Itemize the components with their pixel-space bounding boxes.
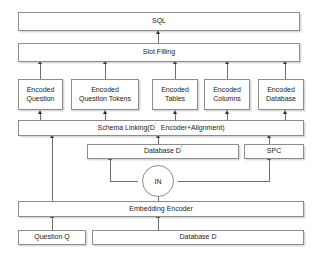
- node-database-d-label: Database D: [180, 233, 217, 242]
- node-encoded-question-line2: Question: [26, 95, 54, 104]
- node-embedding-encoder-label: Embedding Encoder: [129, 205, 192, 214]
- connector-encoded-tables-to-slotfilling: [175, 62, 176, 79]
- node-in-label: IN: [155, 178, 162, 185]
- node-database-d-prime-prefix: Database D: [144, 147, 181, 154]
- node-encoded-columns[interactable]: Encoded Columns: [204, 79, 250, 110]
- node-schema-linking-prefix: Schema Linking(D: [98, 124, 155, 131]
- node-encoded-question-tokens[interactable]: Encoded Question Tokens: [71, 79, 139, 110]
- node-spc-label: SPC: [267, 147, 281, 156]
- arrowhead-encoded-question-tokens: [103, 110, 107, 114]
- node-encoded-database[interactable]: Encoded Database: [258, 79, 304, 110]
- arrowhead-encoded-database: [283, 110, 287, 114]
- node-schema-linking-suffix: Encoder+Alignment): [161, 124, 225, 131]
- connector-encoded-question-tokens-to-slotfilling: [105, 62, 106, 79]
- node-sql-label: SQL: [152, 17, 166, 26]
- node-encoded-question-tokens-line1: Encoded: [91, 86, 119, 95]
- node-database-d-prime-label: Database D': [144, 147, 182, 156]
- node-spc[interactable]: SPC: [244, 144, 304, 159]
- node-encoded-question[interactable]: Encoded Question: [18, 79, 63, 110]
- node-encoded-tables-line2: Tables: [165, 95, 185, 104]
- node-database-d[interactable]: Database D: [92, 230, 304, 245]
- connector-in-to-databasedprime-horizontal: [110, 181, 138, 182]
- connector-encoded-database-to-slotfilling: [285, 62, 286, 79]
- node-embedding-encoder[interactable]: Embedding Encoder: [18, 201, 304, 217]
- node-sql[interactable]: SQL: [18, 12, 300, 31]
- node-encoded-columns-line2: Columns: [213, 95, 241, 104]
- connector-encoded-columns-to-slotfilling: [227, 62, 228, 79]
- node-question-q[interactable]: Question Q: [18, 230, 86, 245]
- node-encoded-question-tokens-line2: Question Tokens: [79, 95, 131, 104]
- node-encoded-tables[interactable]: Encoded Tables: [152, 79, 198, 110]
- node-schema-linking-label: Schema Linking(D'Encoder+Alignment): [98, 124, 225, 133]
- node-schema-linking[interactable]: Schema Linking(D'Encoder+Alignment): [18, 120, 304, 136]
- connector-encoded-question-to-slotfilling: [40, 62, 41, 79]
- arrowhead-encoded-question: [38, 110, 42, 114]
- node-question-q-label: Question Q: [34, 233, 69, 242]
- connector-databased-to-embeddingencoder: [158, 216, 159, 230]
- node-schema-linking-prime: ': [155, 121, 156, 127]
- node-slot-filling[interactable]: Slot Filling: [18, 43, 300, 62]
- node-database-d-prime[interactable]: Database D': [87, 144, 239, 159]
- node-database-d-prime-prime: ': [181, 145, 182, 151]
- connector-questionq-to-embeddingencoder: [52, 216, 53, 230]
- diagram-canvas: SQL Slot Filling Encoded Question Encode…: [0, 0, 320, 253]
- arrowhead-encoded-tables: [173, 110, 177, 114]
- node-encoded-tables-line1: Encoded: [161, 86, 189, 95]
- arrowhead-encoded-columns: [225, 110, 229, 114]
- connector-in-to-spc-vertical: [269, 159, 270, 182]
- connector-in-to-spc-horizontal: [178, 181, 269, 182]
- node-slot-filling-label: Slot Filling: [143, 48, 175, 57]
- node-encoded-question-line1: Encoded: [27, 86, 55, 95]
- node-encoded-columns-line1: Encoded: [213, 86, 241, 95]
- node-encoded-database-line2: Database: [266, 95, 296, 104]
- connector-in-to-databasedprime-vertical: [110, 159, 111, 182]
- node-encoded-database-line1: Encoded: [267, 86, 295, 95]
- node-in[interactable]: IN: [142, 165, 174, 197]
